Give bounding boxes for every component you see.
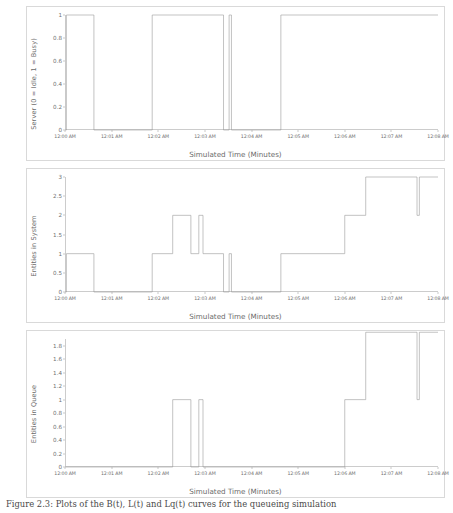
- x-tick-mark: [158, 292, 159, 294]
- x-tick-label: 12:04 AM: [241, 134, 262, 139]
- x-tick-mark: [391, 130, 392, 132]
- x-axis-label-entities-in-queue: Simulated Time (Minutes): [27, 487, 444, 496]
- plot-panel-server: Server (0 = Idle, 1 = Busy) 00.20.40.60.…: [26, 6, 445, 161]
- x-tick-label: 12:07 AM: [381, 296, 402, 301]
- x-tick-label: 12:08 AM: [427, 296, 448, 301]
- plot-area-server: 00.20.40.60.81 12:00 AM12:01 AM12:02 AM1…: [65, 15, 438, 130]
- x-tick-mark: [298, 292, 299, 294]
- x-tick-mark: [344, 292, 345, 294]
- y-axis-label-entities-in-queue: Entities in Queue: [27, 331, 41, 497]
- x-tick-mark: [438, 130, 439, 132]
- x-tick-label: 12:07 AM: [381, 471, 402, 476]
- x-axis-label-entities-in-system: Simulated Time (Minutes): [27, 312, 444, 321]
- series-line-entities-in-system: [65, 177, 438, 292]
- x-tick-label: 12:02 AM: [148, 134, 169, 139]
- x-tick-label: 12:05 AM: [287, 296, 308, 301]
- plot-panel-entities-in-queue: Entities in Queue 00.20.40.60.811.21.41.…: [26, 330, 445, 498]
- series-line-entities-in-queue: [65, 339, 438, 467]
- x-tick-mark: [298, 130, 299, 132]
- x-tick-label: 12:01 AM: [101, 471, 122, 476]
- x-tick-label: 12:00 AM: [54, 134, 75, 139]
- x-tick-mark: [391, 467, 392, 469]
- x-tick-label: 12:05 AM: [287, 471, 308, 476]
- x-tick-mark: [344, 130, 345, 132]
- plot-area-entities-in-queue: 00.20.40.60.811.21.41.61.8 12:00 AM12:01…: [65, 339, 438, 467]
- plot-area-entities-in-system: 00.511.522.53 12:00 AM12:01 AM12:02 AM12…: [65, 177, 438, 292]
- x-tick-mark: [438, 467, 439, 469]
- x-axis-label-server: Simulated Time (Minutes): [27, 150, 444, 159]
- x-tick-mark: [438, 292, 439, 294]
- x-tick-mark: [204, 130, 205, 132]
- x-tick-label: 12:00 AM: [54, 296, 75, 301]
- x-tick-label: 12:03 AM: [194, 134, 215, 139]
- y-axis-label-server: Server (0 = Idle, 1 = Busy): [27, 7, 41, 160]
- x-tick-label: 12:08 AM: [427, 134, 448, 139]
- x-tick-label: 12:02 AM: [148, 471, 169, 476]
- x-tick-label: 12:06 AM: [334, 471, 355, 476]
- x-tick-label: 12:06 AM: [334, 134, 355, 139]
- x-tick-label: 12:03 AM: [194, 296, 215, 301]
- x-tick-mark: [158, 130, 159, 132]
- plot-panel-entities-in-system: Entities in System 00.511.522.53 12:00 A…: [26, 168, 445, 323]
- x-tick-label: 12:04 AM: [241, 296, 262, 301]
- x-tick-label: 12:05 AM: [287, 134, 308, 139]
- figure-caption: Figure 2.3: Plots of the B(t), L(t) and …: [6, 499, 447, 513]
- figure-container: Server (0 = Idle, 1 = Busy) 00.20.40.60.…: [0, 0, 453, 513]
- x-tick-mark: [204, 292, 205, 294]
- x-tick-label: 12:08 AM: [427, 471, 448, 476]
- x-tick-label: 12:06 AM: [334, 296, 355, 301]
- x-tick-label: 12:03 AM: [194, 471, 215, 476]
- x-tick-label: 12:01 AM: [101, 134, 122, 139]
- series-line-server: [65, 15, 438, 130]
- x-tick-label: 12:04 AM: [241, 471, 262, 476]
- x-tick-label: 12:07 AM: [381, 134, 402, 139]
- x-tick-label: 12:01 AM: [101, 296, 122, 301]
- y-axis-label-entities-in-system: Entities in System: [27, 169, 41, 322]
- x-tick-label: 12:02 AM: [148, 296, 169, 301]
- x-tick-mark: [391, 292, 392, 294]
- x-tick-label: 12:00 AM: [54, 471, 75, 476]
